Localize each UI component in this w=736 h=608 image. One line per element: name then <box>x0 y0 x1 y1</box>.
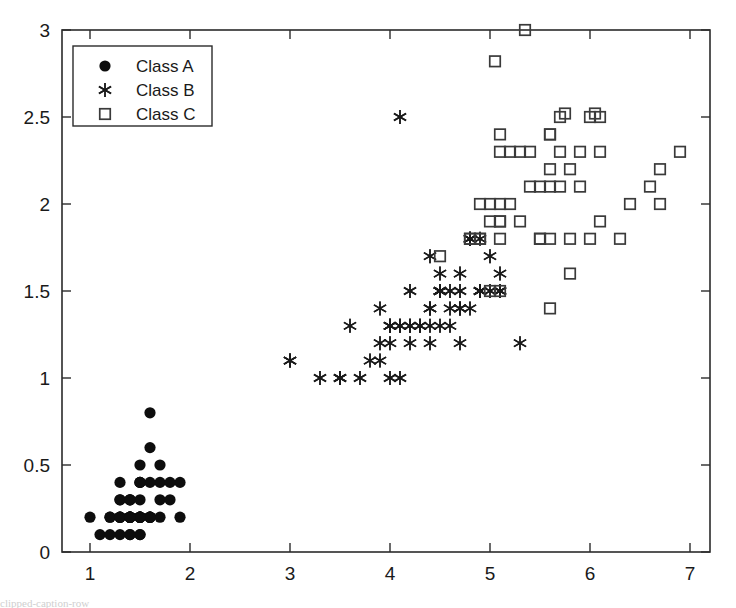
data-point <box>154 459 165 470</box>
data-point <box>384 371 396 385</box>
data-point <box>414 319 426 333</box>
data-point <box>505 147 516 158</box>
data-point <box>505 199 516 210</box>
series-class-c <box>435 25 686 314</box>
data-point <box>535 234 546 245</box>
data-point <box>675 147 686 158</box>
data-point <box>124 494 135 505</box>
data-point <box>595 147 606 158</box>
data-point <box>144 477 155 488</box>
data-point <box>454 336 466 350</box>
data-point <box>134 494 145 505</box>
data-point <box>114 494 125 505</box>
data-point <box>104 512 115 523</box>
data-point <box>625 199 636 210</box>
data-point <box>84 512 95 523</box>
y-tick-label: 0.5 <box>24 455 50 476</box>
data-point <box>545 303 556 314</box>
data-point <box>645 181 656 192</box>
data-point <box>384 319 396 333</box>
data-point <box>495 147 506 158</box>
data-point <box>154 477 165 488</box>
data-point <box>134 529 145 540</box>
data-point <box>424 319 436 333</box>
data-point <box>444 301 456 315</box>
data-point <box>615 234 626 245</box>
data-point <box>404 319 416 333</box>
data-point <box>495 199 506 210</box>
data-point <box>555 147 566 158</box>
data-point <box>154 494 165 505</box>
legend-entry-label: Class A <box>136 57 194 76</box>
x-tick-label: 1 <box>85 563 96 584</box>
data-point <box>424 301 436 315</box>
data-point <box>434 267 446 281</box>
data-point <box>344 319 356 333</box>
data-point <box>514 336 526 350</box>
data-point <box>454 284 466 298</box>
data-point <box>484 249 496 263</box>
plot-canvas: 1234567 00.511.522.53 Class AClass BClas… <box>0 0 736 608</box>
data-point <box>575 147 586 158</box>
x-tick-label: 2 <box>185 563 196 584</box>
y-tick-label: 2 <box>39 194 50 215</box>
data-point <box>314 371 326 385</box>
data-point <box>364 354 376 368</box>
data-point <box>495 216 506 227</box>
data-point <box>444 319 456 333</box>
scatter-plot-figure: 1234567 00.511.522.53 Class AClass BClas… <box>0 0 736 608</box>
data-point <box>525 147 536 158</box>
data-point <box>535 181 546 192</box>
data-point <box>394 319 406 333</box>
data-point <box>454 301 466 315</box>
data-point <box>485 216 496 227</box>
y-tick-label: 0 <box>39 542 50 563</box>
data-point <box>394 371 406 385</box>
data-point <box>124 529 135 540</box>
clipped-caption: clipped-caption-row <box>0 598 736 608</box>
data-point <box>545 129 556 140</box>
data-point <box>494 267 506 281</box>
data-point <box>655 164 666 175</box>
x-tick-label: 4 <box>385 563 396 584</box>
data-point <box>144 442 155 453</box>
data-point <box>424 336 436 350</box>
data-point <box>545 234 556 245</box>
y-tick-label: 2.5 <box>24 107 50 128</box>
data-point <box>114 512 125 523</box>
data-point <box>495 129 506 140</box>
data-point <box>94 529 105 540</box>
data-point <box>490 56 501 67</box>
data-point <box>174 512 185 523</box>
data-point <box>515 147 526 158</box>
data-point <box>164 494 175 505</box>
data-point <box>434 319 446 333</box>
data-point <box>124 512 135 523</box>
data-point <box>374 301 386 315</box>
data-point <box>134 477 145 488</box>
data-point <box>144 407 155 418</box>
data-point <box>374 354 386 368</box>
legend-entry-label: Class B <box>136 81 195 100</box>
data-point <box>495 234 506 245</box>
data-point <box>394 110 406 124</box>
x-tick-label: 7 <box>685 563 696 584</box>
x-tick-label: 6 <box>585 563 596 584</box>
series-class-b <box>284 110 526 385</box>
data-point <box>555 181 566 192</box>
y-tick-label: 3 <box>39 20 50 41</box>
data-point <box>585 234 596 245</box>
x-tick-label: 3 <box>285 563 296 584</box>
legend-marker-filled-circle <box>99 60 110 71</box>
data-point <box>475 199 486 210</box>
data-point <box>565 164 576 175</box>
data-point <box>454 267 466 281</box>
data-point <box>114 529 125 540</box>
data-point <box>434 284 446 298</box>
data-point <box>404 284 416 298</box>
data-point <box>134 512 145 523</box>
data-point <box>515 216 526 227</box>
data-point <box>485 199 496 210</box>
data-point <box>525 181 536 192</box>
legend: Class AClass BClass C <box>73 46 212 126</box>
